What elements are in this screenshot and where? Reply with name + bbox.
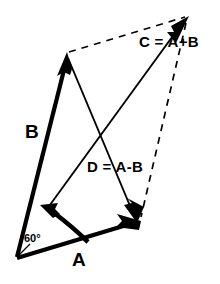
vector-b-label: B: [25, 122, 39, 141]
vector-c-shaft: [47, 22, 183, 209]
vector-d-label: D = A-B: [87, 159, 143, 174]
vector-c-label: C = A+B: [139, 34, 199, 49]
angle-arc-60-path: [53, 212, 88, 242]
vector-diagram: B A C = A+B D = A-B 60°: [0, 0, 220, 284]
vector-b-shaft: [17, 62, 66, 257]
angle-60-label: 60°: [24, 233, 41, 244]
dashed-line-c-to-a: [141, 23, 186, 217]
vector-a-label: A: [72, 250, 86, 269]
